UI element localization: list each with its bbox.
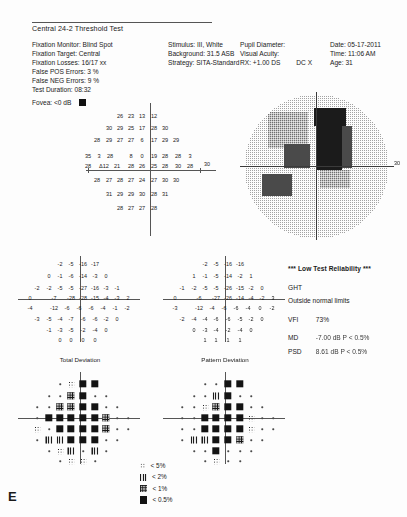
deviation-probability-symbol (79, 380, 86, 387)
deviation-probability-symbol (181, 439, 183, 441)
horizontal-axis (86, 170, 216, 171)
deviation-probability-symbol (67, 436, 74, 443)
deviation-value: 1 (250, 273, 253, 279)
deviation-value: 0 (193, 327, 196, 333)
pattern-deviation-probability-plot (163, 372, 285, 464)
deviation-value: -3 (93, 273, 98, 279)
deviation-value: -2 (58, 261, 63, 267)
stimulus-line: Stimulus: III, White (168, 40, 239, 49)
threshold-value: 29 (162, 137, 168, 143)
threshold-value: 24 (139, 177, 145, 183)
deviation-probability-symbol (250, 450, 252, 452)
threshold-axis-label: 30 (204, 161, 210, 167)
threshold-value: 28 (175, 153, 181, 159)
threshold-value: 30 (173, 177, 179, 183)
rx-line: RX: +1.00 DS DC X (240, 58, 312, 67)
deviation-value: -2 (203, 261, 208, 267)
deviation-value: 1 (239, 337, 242, 343)
deviation-value: -5 (69, 261, 74, 267)
deviation-probability-symbol (212, 414, 219, 421)
plot-caption: Pattern Deviation (201, 356, 248, 363)
threshold-value: 29 (106, 137, 112, 143)
deviation-value: -2 (226, 327, 231, 333)
deviation-value: 1 (215, 337, 218, 343)
figure-panel-label: E (8, 489, 17, 504)
deviation-value: -4 (104, 295, 109, 301)
deviation-probability-symbol (127, 417, 129, 419)
threshold-sensitivity-plot: 2623131230292517283028292727617292935328… (86, 104, 216, 236)
deviation-probability-symbol (212, 447, 219, 454)
deviation-probability-symbol (59, 460, 61, 462)
threshold-value: 27 (106, 177, 112, 183)
fixation-target-line: Fixation Target: Central (32, 49, 113, 58)
deviation-value: -2 (249, 285, 254, 291)
deviation-value: -4 (210, 305, 215, 311)
rx-sphere: RX: +1.00 DS (240, 59, 281, 66)
pupil-diameter-line: Pupil Diameter: (240, 40, 312, 49)
deviation-probability-symbol (82, 450, 84, 452)
deviation-probability-symbol (48, 450, 50, 452)
deviation-value: -4 (249, 295, 254, 301)
threshold-value: 31 (106, 191, 112, 197)
deviation-probability-symbol (193, 450, 195, 452)
deviation-probability-symbol (261, 428, 263, 430)
deviation-probability-symbol (46, 437, 53, 444)
threshold-value: 17 (151, 137, 157, 143)
deviation-probability-symbol (79, 436, 86, 443)
blind-spot-marker: Δ12 (99, 163, 109, 169)
threshold-value: 21 (114, 163, 120, 169)
threshold-value: 28 (151, 125, 157, 131)
deviation-probability-symbol (56, 425, 63, 432)
deviation-value: 0 (29, 295, 32, 301)
deviation-probability-symbol (94, 460, 96, 462)
deviation-value: -17 (91, 261, 99, 267)
deviation-probability-symbol (224, 380, 231, 387)
deviation-probability-symbol (272, 417, 274, 419)
deviation-value: -5 (47, 316, 52, 322)
threshold-value: 28 (107, 153, 113, 159)
deviation-value: -1 (203, 273, 208, 279)
md-value: -7.00 dB P < 0.5% (316, 334, 370, 341)
deviation-value: -6 (89, 305, 94, 311)
fovea-result: Fovea: <0 dB (32, 99, 86, 106)
deviation-probability-symbol (105, 406, 107, 408)
axis-tick (88, 168, 89, 173)
deviation-value: -14 (236, 295, 244, 301)
threshold-value: 26 (117, 113, 123, 119)
deviation-probability-symbol (250, 395, 252, 397)
deviation-probability-symbol (48, 428, 50, 430)
deviation-value: -16 (79, 261, 87, 267)
header-column-stimulus: Stimulus: III, White Background: 31.5 AS… (168, 40, 239, 67)
legend-symbol-icon (140, 474, 147, 481)
deviation-probability-symbol (56, 403, 63, 410)
deviation-probability-symbol (91, 380, 98, 387)
deviation-probability-symbol (201, 425, 208, 432)
deviation-probability-symbol (236, 414, 243, 421)
threshold-value: 19 (151, 153, 157, 159)
deviation-value: -5 (214, 273, 219, 279)
threshold-value: 8 (129, 153, 132, 159)
threshold-value: 30 (162, 125, 168, 131)
deviation-value: 0 (261, 316, 264, 322)
deviation-probability-symbol (116, 406, 118, 408)
deviation-probability-symbol (215, 383, 217, 385)
deviation-value: -14 (224, 273, 232, 279)
deviation-probability-symbol (45, 414, 52, 421)
threshold-value: 27 (128, 205, 134, 211)
rx-cylinder-axis: DC X (296, 58, 312, 67)
header-column-test-parameters: Fixation Monitor: Blind Spot Fixation Ta… (32, 40, 113, 95)
deviation-value: 1 (227, 337, 230, 343)
psd-value: 8.61 dB P < 0.5% (316, 348, 367, 355)
deviation-value: -4 (192, 316, 197, 322)
deviation-probability-symbol (68, 458, 74, 464)
deviation-probability-symbol (224, 425, 231, 432)
deviation-value: -3 (115, 295, 120, 301)
legend-label: < 2% (152, 471, 167, 482)
deviation-value: -2 (104, 316, 109, 322)
deviation-value: -27 (212, 295, 220, 301)
deviation-probability-symbol (91, 436, 98, 443)
legend-row: < 1% (140, 483, 172, 494)
deviation-value: -15 (91, 295, 99, 301)
legend-symbol-icon (140, 463, 146, 469)
legend-row: < 2% (140, 471, 172, 482)
